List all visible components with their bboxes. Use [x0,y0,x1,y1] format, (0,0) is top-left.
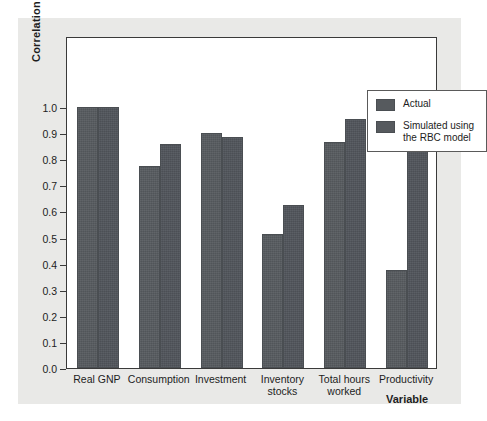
y-axis-tick-label: 1.0 [27,102,57,114]
legend-item-simulated: Simulated using the RBC model [376,120,478,143]
bar-simulated [98,107,119,368]
y-axis-tick-label: 0.9 [27,128,57,140]
y-axis-tick-label: 0.7 [27,180,57,192]
bar-simulated [160,144,181,368]
chart-legend: Actual Simulated using the RBC model [367,90,487,152]
y-axis-title: Correlation [30,0,42,62]
y-axis-tick-label: 0.6 [27,206,57,218]
y-axis-tick [60,369,66,370]
legend-label-simulated: Simulated using the RBC model [403,120,474,143]
y-axis-tick-label: 0.5 [27,233,57,245]
bar-actual [139,166,160,368]
y-axis-tick-label: 0.3 [27,285,57,297]
bar-actual [77,107,98,368]
y-axis-tick-label: 0.8 [27,154,57,166]
x-axis-title: Variable [386,393,428,405]
y-axis-tick-label: 0.4 [27,259,57,271]
legend-swatch-actual [376,99,395,111]
plot-area: Actual Simulated using the RBC model [66,37,437,369]
legend-label-actual: Actual [403,98,431,110]
bar-simulated [345,119,366,368]
bar-simulated [222,137,243,368]
y-axis-tick-label: 0.2 [27,311,57,323]
bar-simulated [283,205,304,368]
y-axis-tick-label: 0.1 [27,337,57,349]
bar-actual [201,133,222,368]
legend-item-actual: Actual [376,98,478,111]
bar-actual [324,142,345,368]
bar-actual [262,234,283,368]
x-axis-category-label: Productivity [361,374,451,386]
bar-actual [386,270,407,368]
legend-swatch-simulated [376,121,395,133]
bar-simulated [407,140,428,368]
